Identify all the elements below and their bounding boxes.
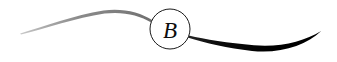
- monogram-letter: B: [163, 18, 177, 43]
- left-gray-swash-icon: [20, 10, 152, 35]
- ornament-canvas: B: [0, 0, 337, 62]
- ornament-artwork: B: [0, 0, 337, 62]
- right-black-swash-icon: [188, 31, 322, 52]
